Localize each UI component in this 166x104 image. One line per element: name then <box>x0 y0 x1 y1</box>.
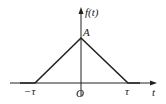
y-axis-arrow-icon <box>79 7 84 14</box>
x-axis-label: t <box>152 86 156 98</box>
origin-label: O <box>76 87 84 99</box>
x-axis-arrow-icon <box>150 81 157 86</box>
y-axis-label: f(t) <box>85 6 99 19</box>
pulse-curve <box>20 38 140 83</box>
right-tick-label: τ <box>125 85 130 97</box>
left-tick-label: −τ <box>24 85 36 97</box>
triangular-pulse-diagram: f(t) A O −τ τ t <box>0 0 166 104</box>
peak-label: A <box>82 26 90 38</box>
